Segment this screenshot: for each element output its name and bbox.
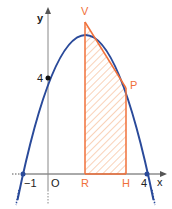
point-label-h: H: [122, 177, 130, 189]
tick-label-four-y: 4: [37, 72, 43, 84]
point-label-r: R: [81, 177, 89, 189]
point-label-v: V: [81, 5, 89, 17]
parabola-dotted-ends: [16, 190, 155, 205]
point-y-intercept: [46, 76, 51, 81]
y-axis: [45, 7, 51, 205]
hatched-region: [85, 22, 126, 174]
point-root-four: [145, 172, 150, 177]
x-axis-label: x: [157, 176, 163, 188]
origin-label: O: [51, 177, 60, 189]
tick-label-neg-one: −1: [24, 177, 37, 189]
point-root-neg-one: [21, 172, 26, 177]
tick-label-four-x: 4: [141, 177, 147, 189]
point-label-p: P: [130, 79, 137, 91]
parabola-diagram: y x O −1 4 4 V P R H: [0, 0, 172, 209]
y-axis-label: y: [37, 12, 44, 24]
